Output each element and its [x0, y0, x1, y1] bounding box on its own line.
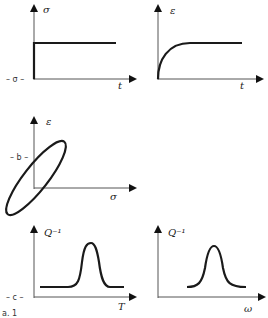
x-axis-label: ω — [244, 303, 252, 314]
y-axis-label: σ — [43, 4, 51, 15]
q-peak-curve — [40, 243, 124, 287]
x-axis-label: t — [240, 80, 245, 91]
x-axis-label: σ — [110, 191, 118, 202]
q-peak-curve — [187, 246, 246, 287]
y-tick-label: – b – — [10, 153, 28, 162]
y-axis-label: Q⁻¹ — [168, 227, 186, 238]
panel-step-stress: σ t – σ – — [6, 4, 133, 91]
hysteresis-ellipse — [0, 134, 74, 221]
y-tick-label: – σ – — [6, 75, 24, 84]
figure-footer: a. 1 — [2, 309, 17, 318]
panel-q-vs-temperature: Q⁻¹ T – c – — [6, 227, 133, 312]
figure-canvas: σ t – σ – ε t ε σ – b – Q⁻¹ T – c – Q⁻¹ … — [0, 0, 268, 318]
y-axis-label: ε — [46, 116, 51, 127]
y-tick-label: – c – — [6, 293, 23, 302]
panel-hysteresis: ε σ – b – — [0, 116, 133, 222]
x-axis-label: T — [118, 301, 126, 312]
y-axis-label: ε — [170, 5, 175, 16]
y-axis-label: Q⁻¹ — [44, 227, 62, 238]
stress-step-curve — [34, 43, 116, 79]
panel-creep-strain: ε t — [158, 5, 260, 91]
panel-q-vs-frequency: Q⁻¹ ω — [158, 227, 262, 314]
x-axis-label: t — [118, 80, 123, 91]
strain-curve — [158, 43, 242, 79]
